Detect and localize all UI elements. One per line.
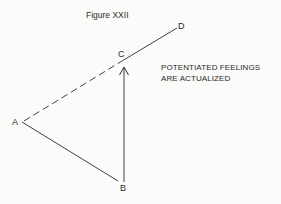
diagram-canvas — [0, 0, 281, 204]
segment-a-c-dashed — [24, 61, 122, 121]
caption-line-1: POTENTIATED FEELINGS — [161, 62, 260, 73]
segment-a-b — [22, 122, 118, 181]
point-label-c: C — [118, 49, 125, 59]
caption-line-2: ARE ACTUALIZED — [161, 73, 260, 84]
point-label-a: A — [12, 117, 18, 127]
point-label-b: B — [120, 183, 126, 193]
segment-c-d — [122, 28, 177, 61]
figure-caption: POTENTIATED FEELINGS ARE ACTUALIZED — [161, 62, 260, 84]
point-label-d: D — [178, 21, 185, 31]
